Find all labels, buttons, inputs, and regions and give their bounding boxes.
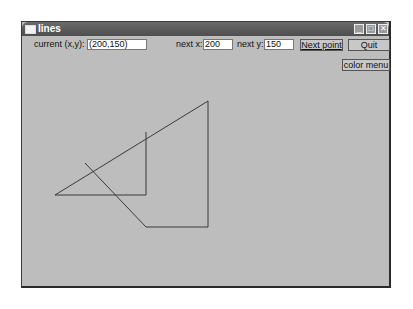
line-segment — [55, 132, 146, 195]
drawing-canvas[interactable] — [0, 0, 413, 309]
line-path — [55, 101, 208, 227]
